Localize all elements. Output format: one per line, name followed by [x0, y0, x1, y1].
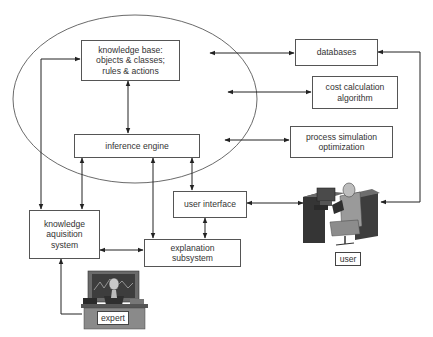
user-interface-label: user interface — [184, 199, 236, 210]
expert-label-text: expert — [101, 313, 125, 323]
user-interface-box: user interface — [173, 191, 247, 218]
knowledge-base-box: knowledge base: objects & classes; rules… — [81, 40, 180, 81]
user-label: user — [335, 252, 361, 266]
knowledge-base-line-2: objects & classes; — [96, 55, 165, 66]
knowledge-acquisition-line-3: system — [44, 240, 85, 251]
cost-calc-line-1: cost calculation — [326, 82, 385, 93]
databases-label: databases — [317, 47, 357, 58]
inference-engine-box: inference engine — [74, 134, 200, 158]
process-sim-line-1: process simulation — [306, 132, 377, 143]
knowledge-acquisition-line-1: knowledge — [44, 219, 85, 230]
knowledge-acquisition-box: knowledge aquisition system — [29, 210, 100, 259]
cost-calculation-box: cost calculation algorithm — [312, 76, 398, 109]
process-sim-line-2: optimization — [306, 142, 377, 153]
expert-label: expert — [97, 311, 129, 325]
explanation-line-2: subsystem — [171, 253, 215, 264]
cost-calc-line-2: algorithm — [326, 93, 385, 104]
edge-expert-ka — [61, 259, 82, 314]
explanation-line-1: explanation — [171, 243, 215, 254]
user-label-text: user — [340, 254, 357, 264]
inference-engine-label: inference engine — [105, 141, 169, 152]
process-simulation-box: process simulation optimization — [290, 126, 393, 158]
knowledge-base-line-3: rules & actions — [96, 66, 165, 77]
user-icon — [303, 183, 380, 245]
knowledge-base-line-1: knowledge base: — [96, 45, 165, 56]
knowledge-acquisition-line-2: aquisition — [44, 229, 85, 240]
explanation-subsystem-box: explanation subsystem — [144, 239, 241, 267]
databases-box: databases — [295, 39, 378, 66]
